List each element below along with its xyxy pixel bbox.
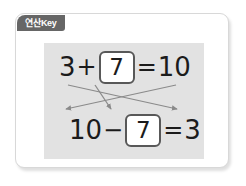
top-result: 10 <box>158 54 191 80</box>
bottom-result: 3 <box>184 117 201 143</box>
bottom-answer-value: 7 <box>136 119 151 142</box>
arrow-box-to-box <box>95 85 111 109</box>
equation-top: 3 + 7 = 10 <box>59 49 191 85</box>
badge-label: 연산Key <box>25 19 56 28</box>
bottom-answer-box[interactable]: 7 <box>125 114 161 147</box>
top-answer-box[interactable]: 7 <box>99 51 135 84</box>
arrow-right-to-left <box>66 85 176 109</box>
top-operator: + <box>76 55 98 79</box>
operation-key-card: 연산Key 3 + 7 = 10 <box>15 13 229 168</box>
bottom-operator: − <box>102 118 124 142</box>
bottom-equals-sign: = <box>162 118 184 142</box>
equation-bottom: 10 − 7 = 3 <box>69 112 201 148</box>
badge-operation-key: 연산Key <box>17 15 65 31</box>
top-left-operand: 3 <box>59 54 76 80</box>
bottom-left-operand: 10 <box>69 117 102 143</box>
equation-panel: 3 + 7 = 10 10 − 7 = 3 <box>44 43 204 159</box>
top-answer-value: 7 <box>109 56 124 79</box>
arrow-left-to-right <box>68 85 177 109</box>
top-equals-sign: = <box>136 55 158 79</box>
